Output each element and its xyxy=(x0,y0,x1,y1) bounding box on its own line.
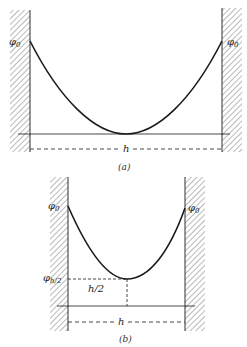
half-width-label-b: h/2 xyxy=(88,283,104,294)
left-wall-a xyxy=(10,10,30,152)
figure-a: φ0 φ0 h (a) xyxy=(9,8,242,172)
figure-b: φ0 φ0 φh/2 h/2 h (b) xyxy=(43,177,205,344)
width-label-b: h xyxy=(118,316,124,327)
caption-a: (a) xyxy=(118,162,131,172)
caption-b: (b) xyxy=(119,334,132,344)
potential-wells-diagram: φ0 φ0 h (a) φ0 φ0 φh/2 h/2 h (b) xyxy=(0,0,247,347)
potential-curve-b xyxy=(68,206,185,279)
right-wall-b xyxy=(185,177,205,331)
potential-curve-a xyxy=(30,41,222,134)
width-label-a: h xyxy=(123,143,129,154)
right-wall-a xyxy=(222,8,242,152)
